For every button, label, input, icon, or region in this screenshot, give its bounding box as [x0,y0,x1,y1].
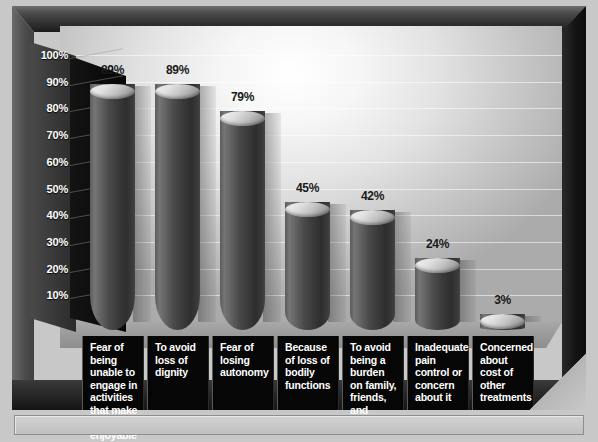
y-axis-tick-label: 50% [28,183,68,195]
y-axis-tick-label: 20% [28,263,68,275]
bar[interactable]: 79% [220,103,265,330]
gridline [60,82,562,83]
bar-top-ellipse [350,210,395,225]
chart-frame: 100%90%80%70%60%50%40%30%20%10% 89%89%79… [12,6,586,410]
bar-value-label: 45% [272,181,343,195]
bar-shadow [393,212,411,322]
y-axis-tick-label: 60% [28,156,68,168]
y-axis-tick-label: 80% [28,102,68,114]
x-axis-category-label: Because of loss of bodily functions [277,336,339,410]
bar-body [90,84,135,330]
bar-shadow [133,86,151,322]
bar-value-label: 79% [207,90,278,104]
y-axis-tick-label: 30% [28,236,68,248]
frame-right-bevel [562,6,586,410]
bar-top-ellipse [415,258,460,273]
bar-value-label: 42% [337,189,408,203]
x-axis-category-text: Fear of losing autonomy [220,341,269,379]
bar-shadow [263,113,281,322]
y-axis-tick-line [70,48,123,59]
bar[interactable]: 89% [155,76,200,330]
y-axis-tick-label: 40% [28,209,68,221]
bar-shadow [198,86,216,322]
y-axis-tick-label: 70% [28,129,68,141]
bar-body [350,210,395,330]
x-axis-category-text: Concerned about cost of other treatments [480,341,529,404]
bar-top-ellipse [480,314,525,329]
bar-shadow [458,260,476,322]
caption-strip [14,415,584,435]
x-axis-category-label: To avoid being a burden on family, frien… [342,336,404,410]
x-axis-category-text: Inadequate pain control or concern about… [415,341,464,404]
bar[interactable]: 45% [285,194,330,330]
y-axis-tick-label: 100% [28,49,68,61]
gridline [60,55,562,56]
x-axis-category-text: To avoid loss of dignity [155,341,204,379]
caption-text [15,416,583,422]
bar[interactable]: 24% [415,250,460,330]
bar-value-label: 89% [77,63,148,77]
bar-shadow [523,316,541,322]
x-axis-category-label: To avoid loss of dignity [147,336,209,410]
bar-top-ellipse [285,202,330,217]
y-axis-tick-label: 90% [28,76,68,88]
bar[interactable]: 42% [350,202,395,330]
x-axis-category-label: Fear of losing autonomy [212,336,274,410]
x-axis-category-label: Inadequate pain control or concern about… [407,336,469,410]
frame-corner-cut [530,354,586,410]
x-axis-category-label: Fear of being unable to engage in activi… [82,336,144,410]
bar[interactable]: 3% [480,306,525,330]
bar-body [220,111,265,330]
x-axis-category-label: Concerned about cost of other treatments [472,336,534,410]
x-axis-category-text: Because of loss of bodily functions [285,341,334,391]
y-axis-tick-label: 10% [28,289,68,301]
bar-body [155,84,200,330]
bar[interactable]: 89% [90,76,135,330]
bar-value-label: 89% [142,63,213,77]
bar-top-ellipse [220,111,265,126]
bar-shadow [328,204,346,322]
bar-body [285,202,330,330]
bar-value-label: 24% [402,237,473,251]
bar-value-label: 3% [467,293,538,307]
